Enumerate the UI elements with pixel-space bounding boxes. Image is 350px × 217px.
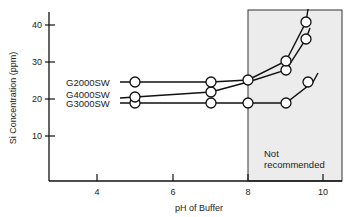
x-tick-label: 10 [318, 187, 328, 197]
region-label-line2: recommended [264, 159, 325, 170]
series-label-g3000sw: G3000SW [66, 98, 110, 109]
y-tick-label: 20 [32, 94, 42, 104]
x-tick-label: 4 [94, 187, 99, 197]
y-axis-label: Si Concentration (ppm) [8, 52, 18, 145]
x-axis-label: pH of Buffer [175, 203, 223, 213]
y-ticks: 10 20 30 40 [32, 20, 55, 141]
chart: Not recommended 10 20 30 40 4 6 8 10 pH … [0, 0, 350, 217]
series-label-g2000sw: G2000SW [66, 77, 110, 88]
x-tick-label: 8 [245, 187, 250, 197]
y-tick-label: 40 [32, 20, 42, 30]
y-tick-label: 30 [32, 57, 42, 67]
y-tick-label: 10 [32, 131, 42, 141]
x-tick-label: 6 [170, 187, 175, 197]
region-label-line1: Not [264, 148, 279, 159]
